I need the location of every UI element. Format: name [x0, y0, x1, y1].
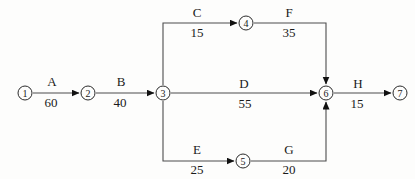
- activity-H-duration: 15: [351, 97, 364, 110]
- activity-A-duration: 60: [45, 96, 58, 109]
- node-2: 2: [81, 86, 96, 101]
- node-4: 4: [239, 16, 254, 31]
- node-5: 5: [236, 154, 251, 169]
- node-1: 1: [18, 86, 33, 101]
- activity-B-name: B: [117, 75, 126, 88]
- node-3: 3: [156, 86, 171, 101]
- node-7: 7: [393, 86, 408, 101]
- activity-D-duration: 55: [239, 97, 252, 110]
- project-network-diagram: 1 2 3 4 5 6 7 A 60 B 40 C 15 F 35 D 55 E…: [0, 0, 415, 179]
- node-4-label: 4: [244, 18, 249, 28]
- node-5-label: 5: [241, 156, 246, 166]
- node-3-label: 3: [161, 88, 166, 98]
- activity-D-name: D: [239, 77, 248, 90]
- activity-C-name: C: [193, 6, 202, 19]
- activity-C-duration: 15: [191, 26, 204, 39]
- activity-E-duration: 25: [191, 163, 204, 176]
- node-6: 6: [319, 86, 334, 101]
- node-6-label: 6: [324, 88, 329, 98]
- activity-A-name: A: [47, 75, 56, 88]
- activity-G-name: G: [284, 143, 293, 156]
- node-2-label: 2: [86, 88, 91, 98]
- activity-G-duration: 20: [283, 163, 296, 176]
- node-1-label: 1: [23, 88, 28, 98]
- activity-B-duration: 40: [114, 96, 127, 109]
- node-7-label: 7: [398, 88, 403, 98]
- activity-F-duration: 35: [283, 26, 296, 39]
- activity-E-name: E: [193, 143, 201, 156]
- activity-F-name: F: [285, 6, 292, 19]
- activity-H-name: H: [353, 77, 362, 90]
